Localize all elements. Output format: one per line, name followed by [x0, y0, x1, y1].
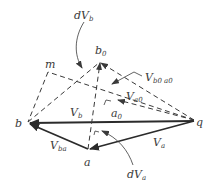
vector-va0	[118, 100, 194, 120]
vector-va0-label: Va0	[126, 90, 143, 104]
vector-vb-label: Vb	[70, 106, 83, 120]
callout-vb0a0	[112, 72, 142, 84]
callout-dva	[102, 131, 133, 165]
vector-va	[90, 121, 194, 149]
point-b-label: b	[15, 117, 22, 130]
point-m-label: m	[45, 58, 55, 71]
velocity-diagram: q b a m b0 a0 Vb Va Vba Va0 Vb0 a0 dVb d…	[0, 0, 218, 196]
dashed-b-b0	[28, 62, 100, 122]
callout-dvb	[76, 22, 84, 68]
vector-dva-label: dVa	[127, 168, 146, 182]
right-angle-mark-a0	[104, 100, 111, 105]
right-angle-mark-a	[94, 131, 99, 135]
point-a0-label: a0	[111, 107, 123, 121]
vector-vb	[30, 121, 194, 123]
vector-dvb-label: dVb	[74, 9, 94, 23]
vector-vb0a0-label: Vb0 a0	[145, 71, 173, 85]
vector-vba-label: Vba	[50, 139, 67, 153]
point-q-label: q	[196, 116, 203, 129]
point-a-label: a	[84, 156, 91, 169]
dashed-m-b	[28, 72, 48, 122]
vector-va-label: Va	[153, 136, 165, 150]
point-b0-label: b0	[95, 44, 107, 58]
dashed-a-b0	[88, 63, 100, 149]
